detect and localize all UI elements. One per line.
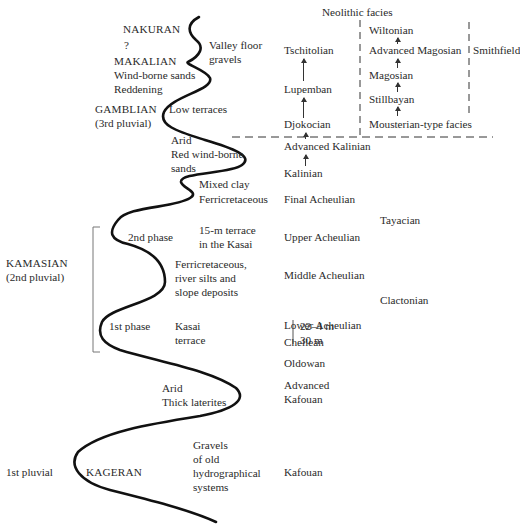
label-makalian-note-2: Reddening	[114, 83, 162, 96]
industry-tschitolian: Tschitolian	[284, 44, 334, 57]
arrow-lupemban-to-tschitolian	[303, 59, 304, 81]
deposit-kasai-1: Kasai	[175, 320, 200, 333]
deposit-arid-laterites-1: Arid	[162, 382, 183, 395]
label-first-pluvial: 1st pluvial	[6, 466, 53, 479]
industry-smithfield: Smithfield	[473, 44, 520, 57]
deposit-arid-3: sands	[171, 162, 196, 175]
industry-djokocian: Djokocian	[284, 118, 331, 131]
industry-neolithic: Neolithic facies	[322, 6, 393, 19]
label-nakuran-question: ?	[124, 39, 129, 52]
arrow-mousterian-to-stillbayan	[397, 107, 398, 116]
industry-upper-acheulian: Upper Acheulian	[284, 231, 360, 244]
label-kamasian-sub: (2nd pluvial)	[6, 271, 64, 284]
deposit-kasai-2: terrace	[175, 334, 205, 347]
label-nakuran: NAKURAN	[123, 23, 180, 36]
industry-middle-acheulian: Middle Acheulian	[284, 269, 364, 282]
industry-lower-acheulian: Lower Acheulian	[284, 319, 361, 332]
label-makalian-note-1: Wind-borne sands	[114, 69, 195, 82]
deposit-gravels-3: hydrographical	[193, 467, 261, 480]
label-makalian: MAKALIAN	[114, 55, 177, 68]
industry-advanced-kafouan-2: Kafouan	[284, 393, 323, 406]
label-kamasian: KAMASIAN	[6, 257, 68, 270]
arrow-kalinian-to-advanced	[305, 155, 306, 166]
deposit-ferric-silts-2: river silts and	[175, 272, 236, 285]
deposit-ferric-silts-3: slope deposits	[175, 286, 238, 299]
deposit-gravels-4: systems	[193, 481, 228, 494]
arrow-stillbayan-to-magosian	[397, 83, 398, 92]
industry-kafouan: Kafouan	[284, 466, 323, 479]
arrow-magosian-to-adv-magosian	[397, 59, 398, 68]
industry-kalinian: Kalinian	[284, 167, 323, 180]
industry-clactonian: Clactonian	[380, 294, 428, 307]
deposit-phase-2: 2nd phase	[128, 231, 173, 244]
industry-wiltonian: Wiltonian	[369, 24, 413, 37]
deposit-arid-1: Arid	[171, 134, 192, 147]
deposit-15m-terrace-1: 15-m terrace	[199, 224, 256, 237]
deposit-low-terraces: Low terraces	[169, 103, 227, 116]
arrow-advanced-kalinian-to-djokocian	[305, 133, 306, 139]
deposit-ferric-silts-1: Ferricretaceous,	[175, 258, 247, 271]
arrow-djokocian-to-lupemban	[303, 98, 304, 118]
industry-stillbayan: Stillbayan	[369, 93, 414, 106]
industry-advanced-magosian: Advanced Magosian	[369, 44, 461, 57]
industry-magosian: Magosian	[369, 69, 413, 82]
deposit-phase-1: 1st phase	[109, 320, 150, 333]
deposit-arid-laterites-2: Thick laterites	[162, 396, 226, 409]
industry-advanced-kafouan-1: Advanced	[284, 379, 329, 392]
industry-lupemban: Lupemban	[284, 83, 332, 96]
industry-oldowan: Oldowan	[284, 357, 325, 370]
label-gamblian-sub: (3rd pluvial)	[95, 117, 151, 130]
deposit-15m-terrace-2: in the Kasai	[199, 238, 252, 251]
deposit-valley-floor-1: Valley floor	[209, 39, 262, 52]
deposit-valley-floor-2: gravels	[209, 53, 241, 66]
deposit-arid-2: Red wind-borne	[171, 148, 243, 161]
deposit-mixed-clay: Mixed clay	[199, 178, 250, 191]
deposit-gravels-2: of old	[193, 453, 219, 466]
industry-mousterian: Mousterian-type facies	[369, 118, 472, 131]
deposit-ferricretaceous: Ferricretaceous	[199, 193, 268, 206]
industry-chellean: Chellean	[284, 336, 324, 349]
label-gamblian: GAMBLIAN	[95, 103, 157, 116]
industry-tayacian: Tayacian	[380, 214, 420, 227]
industry-advanced-kalinian: Advanced Kalinian	[284, 140, 371, 153]
label-kageran: KAGERAN	[86, 466, 142, 479]
industry-final-acheulian: Final Acheulian	[284, 193, 355, 206]
deposit-gravels-1: Gravels	[193, 439, 228, 452]
